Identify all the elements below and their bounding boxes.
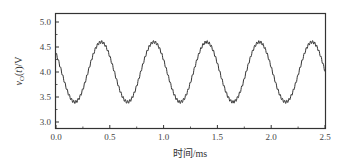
x-tick-label: 2.0 xyxy=(266,132,278,142)
x-tick-label: 2.5 xyxy=(319,132,331,142)
y-axis-label: vO(t)/V xyxy=(13,56,26,86)
y-tick-label: 3.5 xyxy=(40,92,52,102)
x-tick-label: 0.5 xyxy=(104,132,116,142)
x-tick-label: 0.0 xyxy=(50,132,62,142)
y-tick-label: 5.0 xyxy=(40,17,52,27)
waveform-line xyxy=(56,41,325,104)
y-tick-label: 3.0 xyxy=(40,117,52,127)
plot-frame xyxy=(56,14,326,129)
x-axis-label: 时间/ms xyxy=(173,147,208,159)
y-tick-label: 4.0 xyxy=(40,67,52,77)
x-axis-ticks: 0.00.51.01.52.02.5 xyxy=(50,125,331,142)
chart: 3.03.54.04.55.0 0.00.51.01.52.02.5 时间/ms… xyxy=(0,0,352,166)
x-tick-label: 1.0 xyxy=(158,132,170,142)
x-tick-label: 1.5 xyxy=(212,132,224,142)
y-axis-ticks: 3.03.54.04.55.0 xyxy=(40,17,59,127)
y-tick-label: 4.5 xyxy=(40,42,52,52)
